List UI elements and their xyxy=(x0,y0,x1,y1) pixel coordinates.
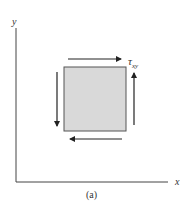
y-axis-label: y xyxy=(12,17,16,27)
stress-element xyxy=(64,67,126,131)
figure-caption: (a) xyxy=(86,190,97,200)
tau-subscript: xy xyxy=(132,62,138,70)
diagram-canvas xyxy=(0,0,194,205)
x-axis-label: x xyxy=(175,177,179,187)
shear-stress-label: τxy xyxy=(128,56,138,70)
